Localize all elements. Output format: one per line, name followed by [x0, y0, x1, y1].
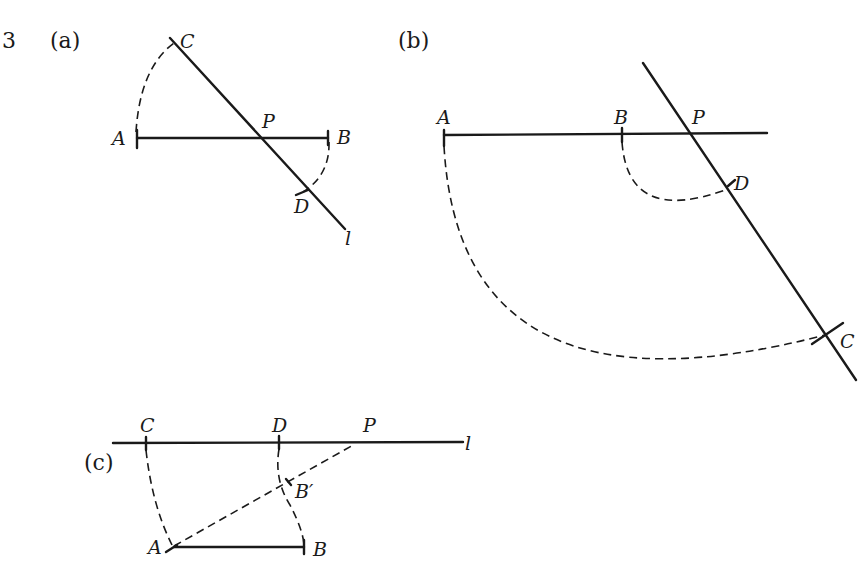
line-l	[170, 38, 345, 229]
label-b-p: P	[691, 106, 706, 128]
part-c-figure: C D P l B′ A B	[113, 414, 471, 560]
label-c-l: l	[465, 432, 471, 454]
arc-ca	[146, 450, 172, 545]
arc-bd	[622, 142, 725, 200]
label-b-b: B	[613, 106, 628, 128]
label-c-a: A	[146, 536, 162, 558]
part-b-figure: A B P D C	[435, 63, 856, 380]
label-c-p: P	[362, 414, 377, 436]
question-number: 3	[2, 28, 16, 53]
label-b-c: C	[840, 330, 855, 352]
tick-c	[812, 323, 843, 344]
line-l	[113, 442, 463, 443]
line-through-p	[643, 63, 856, 380]
part-c-label: (c)	[84, 450, 114, 475]
part-a-figure: C A P B D l	[110, 30, 351, 249]
arc-ac	[136, 43, 174, 132]
line-ap	[174, 444, 355, 546]
label-b-d: D	[733, 172, 749, 194]
label-c-c: C	[140, 414, 155, 436]
arc-ac	[444, 146, 825, 359]
part-b-label: (b)	[398, 28, 429, 53]
part-a-label: (a)	[50, 28, 80, 53]
label-a-c: C	[180, 30, 195, 52]
label-b-a: A	[435, 106, 451, 128]
label-c-b: B	[312, 538, 327, 560]
line-ab-extended	[444, 133, 767, 135]
geometry-diagram: 3 (a) (b) (c) C A P B D l A B P D C	[0, 0, 859, 567]
arc-bd	[303, 142, 329, 192]
label-a-l: l	[345, 227, 351, 249]
label-a-d: D	[293, 195, 309, 217]
label-c-d: D	[271, 414, 287, 436]
label-c-b-prime: B′	[294, 480, 314, 502]
label-a-a: A	[110, 127, 126, 149]
label-a-p: P	[261, 110, 276, 132]
label-a-b: B	[336, 126, 351, 148]
